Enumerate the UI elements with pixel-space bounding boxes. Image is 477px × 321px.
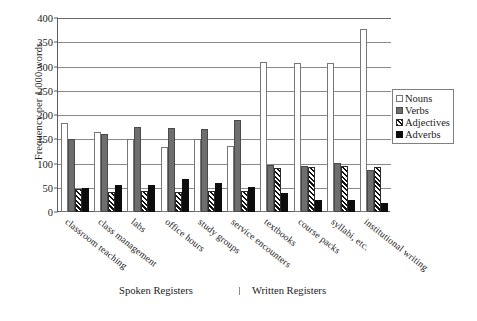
bar-adverbs bbox=[182, 179, 189, 212]
bar-verbs bbox=[334, 163, 341, 212]
bar-adjectives bbox=[241, 191, 248, 212]
bar-group bbox=[158, 18, 191, 212]
bar-adjectives bbox=[175, 192, 182, 212]
y-axis-tick-label: 100 bbox=[19, 158, 58, 169]
bar-verbs bbox=[168, 128, 175, 212]
x-axis-label: labs bbox=[129, 216, 148, 234]
bar-adverbs bbox=[215, 183, 222, 212]
plot-area: 050100150200250300350400 bbox=[57, 18, 390, 212]
caption-spoken-registers: Spoken Registers bbox=[119, 285, 193, 296]
bar-group bbox=[58, 18, 91, 212]
bar-nouns bbox=[194, 139, 201, 212]
bar-nouns bbox=[294, 63, 301, 212]
bar-group bbox=[358, 18, 391, 212]
bar-adjectives bbox=[308, 167, 315, 212]
y-axis-tick-label: 300 bbox=[19, 61, 58, 72]
y-axis-tick-label: 250 bbox=[19, 85, 58, 96]
bar-adjectives bbox=[141, 191, 148, 212]
bar-group bbox=[125, 18, 158, 212]
y-axis-tick-label: 350 bbox=[19, 37, 58, 48]
bar-adverbs bbox=[248, 187, 255, 212]
adverbs-swatch-icon bbox=[396, 131, 403, 138]
legend-item-adjectives[interactable]: Adjectives bbox=[396, 116, 450, 128]
bar-nouns bbox=[161, 147, 168, 212]
verbs-swatch-icon bbox=[396, 107, 403, 114]
bar-group bbox=[224, 18, 257, 212]
bar-nouns bbox=[260, 62, 267, 212]
y-axis-tick-label: 200 bbox=[19, 110, 58, 121]
legend-item-adverbs[interactable]: Adverbs bbox=[396, 128, 450, 140]
bar-adverbs bbox=[82, 188, 89, 212]
y-axis-tick-label: 50 bbox=[19, 182, 58, 193]
bar-verbs bbox=[201, 129, 208, 212]
legend-label: Verbs bbox=[405, 105, 429, 116]
bar-adjectives bbox=[274, 168, 281, 212]
legend-item-nouns[interactable]: Nouns bbox=[396, 92, 450, 104]
bar-verbs bbox=[68, 139, 75, 212]
bar-nouns bbox=[360, 29, 367, 212]
bar-nouns bbox=[327, 63, 334, 212]
bar-adverbs bbox=[381, 203, 388, 212]
legend-label: Adverbs bbox=[405, 129, 441, 140]
bar-verbs bbox=[101, 134, 108, 212]
bar-adverbs bbox=[281, 193, 288, 212]
bar-groups bbox=[58, 18, 391, 212]
bar-nouns bbox=[94, 132, 101, 212]
legend-item-verbs[interactable]: Verbs bbox=[396, 104, 450, 116]
bar-group bbox=[291, 18, 324, 212]
bar-nouns bbox=[61, 123, 68, 212]
bar-chart: Frequency per 1,000 words 05010015020025… bbox=[0, 0, 477, 321]
bar-group bbox=[324, 18, 357, 212]
legend-label: Adjectives bbox=[405, 117, 450, 128]
bar-verbs bbox=[134, 127, 141, 212]
bar-adverbs bbox=[315, 200, 322, 212]
nouns-swatch-icon bbox=[396, 95, 403, 102]
y-axis-tick-label: 400 bbox=[19, 13, 58, 24]
bar-nouns bbox=[127, 139, 134, 212]
bar-verbs bbox=[234, 120, 241, 212]
bar-adverbs bbox=[115, 185, 122, 212]
bar-adjectives bbox=[208, 191, 215, 212]
y-axis-tick-label: 150 bbox=[19, 134, 58, 145]
bar-adverbs bbox=[148, 185, 155, 212]
bar-group bbox=[91, 18, 124, 212]
bar-group bbox=[258, 18, 291, 212]
register-divider bbox=[239, 287, 240, 295]
bar-verbs bbox=[267, 165, 274, 212]
y-axis-title: Frequency per 1,000 words bbox=[33, 2, 44, 202]
y-axis-tick-label: 0 bbox=[19, 207, 58, 218]
bar-adverbs bbox=[348, 200, 355, 212]
bar-nouns bbox=[227, 146, 234, 212]
bar-adjectives bbox=[374, 167, 381, 212]
bar-verbs bbox=[301, 166, 308, 212]
caption-written-registers: Written Registers bbox=[252, 285, 326, 296]
bar-adjectives bbox=[341, 166, 348, 212]
bar-adjectives bbox=[75, 189, 82, 212]
legend-label: Nouns bbox=[405, 93, 432, 104]
adjectives-swatch-icon bbox=[396, 119, 403, 126]
legend: NounsVerbsAdjectivesAdverbs bbox=[392, 89, 454, 144]
x-axis-label: institutional writing bbox=[363, 216, 431, 273]
bar-verbs bbox=[367, 170, 374, 212]
bar-adjectives bbox=[108, 192, 115, 212]
bar-group bbox=[191, 18, 224, 212]
